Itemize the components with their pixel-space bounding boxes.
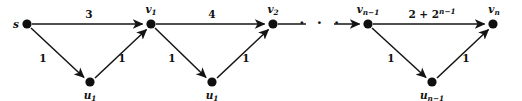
edge-weight-un1-vn: 1 [462, 53, 469, 64]
edge-weight-u1-v1: 1 [118, 53, 125, 64]
node-group [22, 19, 497, 86]
node-u1-first [85, 77, 94, 86]
node-label-s: s [13, 19, 19, 30]
node-label-un-1-base: u [420, 89, 428, 101]
node-un-1 [427, 77, 436, 86]
node-label-u1-second-sub: 1 [213, 94, 218, 101]
node-label-v2: v2 [267, 4, 278, 15]
graph-figure: s v1 v2 vn−1 vn u1 u1 un−1 3 4 2 + 2n−1 … [0, 0, 522, 101]
edge-weight-vn1-vn: 2 + 2n−1 [408, 9, 455, 20]
edge-weight-vn1-vn-exponent: n−1 [439, 7, 456, 16]
node-label-v2-sub: 2 [274, 8, 279, 17]
node-label-u1-first-base: u [84, 89, 92, 101]
node-label-u1-first: u1 [84, 90, 97, 101]
node-label-vn-1: vn−1 [357, 4, 380, 15]
node-vn [488, 19, 497, 28]
edge-weight-v1-u1: 1 [168, 53, 175, 64]
node-label-v1-sub: 1 [152, 8, 157, 17]
node-label-vn-1-sub: n−1 [363, 8, 380, 17]
edge-weight-vn1-un1: 1 [387, 53, 394, 64]
edge-weight-v1-v2: 4 [208, 9, 215, 20]
node-s [22, 19, 31, 28]
node-vn-1 [363, 19, 372, 28]
edge-v1-to-u1b [155, 28, 206, 78]
node-label-u1-first-sub: 1 [91, 94, 96, 101]
node-v1 [146, 19, 155, 28]
node-label-vn: vn [488, 4, 499, 15]
edge-weight-s-u1: 1 [39, 53, 46, 64]
ellipsis-icon: · · · [299, 16, 343, 31]
node-label-un-1-sub: n−1 [428, 94, 445, 101]
node-label-u1-second: u1 [206, 90, 219, 101]
node-u1-second [207, 77, 216, 86]
edge-group-diagonal [31, 28, 489, 78]
edge-weight-vn1-vn-prefix: 2 + 2 [408, 8, 439, 20]
edge-vn1-to-un1 [372, 28, 426, 78]
edge-weight-s-v1: 3 [85, 9, 92, 20]
node-v2 [268, 19, 277, 28]
edge-weight-u1-v2: 1 [242, 53, 249, 64]
node-label-vn-sub: n [494, 8, 499, 17]
node-label-v1: v1 [145, 4, 156, 15]
node-label-u1-second-base: u [206, 89, 214, 101]
node-label-un-1: un−1 [420, 90, 444, 101]
